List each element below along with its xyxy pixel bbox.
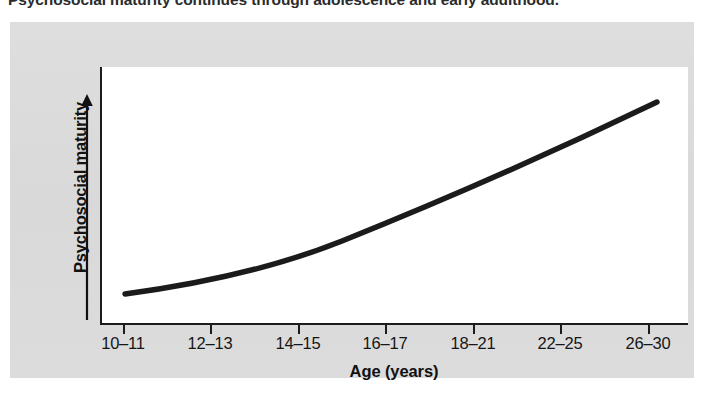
plot-canvas [100,67,688,325]
maturity-curve-svg [102,67,690,325]
x-tick-label: 16–17 [363,334,408,353]
x-tick-mark [123,325,125,334]
x-tick-mark [473,325,475,334]
x-tick-mark [560,325,562,334]
x-axis-tick-labels: 10–11 12–13 14–15 16–17 18–21 22–25 26–3… [100,334,688,358]
x-tick-label: 12–13 [188,334,233,353]
x-tick-mark [648,325,650,334]
x-tick-label: 14–15 [276,334,321,353]
maturity-curve-path [125,102,657,294]
x-tick-label: 22–25 [538,334,583,353]
figure-caption: Psychosocial maturity continues through … [8,0,698,13]
x-tick-label: 26–30 [626,334,671,353]
x-axis-tick-marks [100,325,688,334]
x-tick-mark [298,325,300,334]
x-tick-mark [385,325,387,334]
up-arrow-icon [80,94,94,322]
x-tick-mark [210,325,212,334]
x-axis-title: Age (years) [100,362,688,381]
x-tick-label: 18–21 [451,334,496,353]
figure-panel: Psychosocial maturity 10–11 12–13 14–15 … [10,22,694,378]
y-axis-group: Psychosocial maturity [38,80,96,320]
x-tick-label: 10–11 [101,334,145,353]
